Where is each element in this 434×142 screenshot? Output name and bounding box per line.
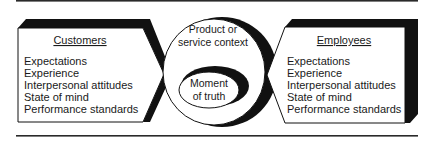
context-label-line1: Product or — [189, 23, 238, 35]
employees-item-expectations: Expectations — [287, 55, 350, 67]
moment-of-truth-diagram: Customers Expectations Experience Interp… — [0, 0, 434, 142]
moment-label-line2: of truth — [193, 90, 226, 102]
context-label-line2: service context — [178, 36, 248, 48]
customers-item-interpersonal-attitudes: Interpersonal attitudes — [24, 79, 133, 91]
customers-item-state-of-mind: State of mind — [24, 91, 89, 103]
employees-item-state-of-mind: State of mind — [287, 91, 352, 103]
moment-label-line1: Moment — [190, 77, 228, 89]
context-circle: Product or service context Moment of tru… — [163, 17, 277, 127]
employees-item-interpersonal-attitudes: Interpersonal attitudes — [287, 79, 396, 91]
customers-title: Customers — [53, 34, 107, 46]
top-rule — [16, 0, 418, 2]
customers-item-experience: Experience — [24, 67, 79, 79]
employees-panel: Employees Expectations Experience Interp… — [267, 19, 418, 123]
employees-item-performance-standards: Performance standards — [287, 103, 402, 115]
employees-item-experience: Experience — [287, 67, 342, 79]
employees-title: Employees — [317, 34, 372, 46]
customers-panel: Customers Expectations Experience Interp… — [18, 19, 172, 122]
customers-item-performance-standards: Performance standards — [24, 103, 139, 115]
customers-item-expectations: Expectations — [24, 55, 87, 67]
bottom-rule — [16, 135, 418, 137]
